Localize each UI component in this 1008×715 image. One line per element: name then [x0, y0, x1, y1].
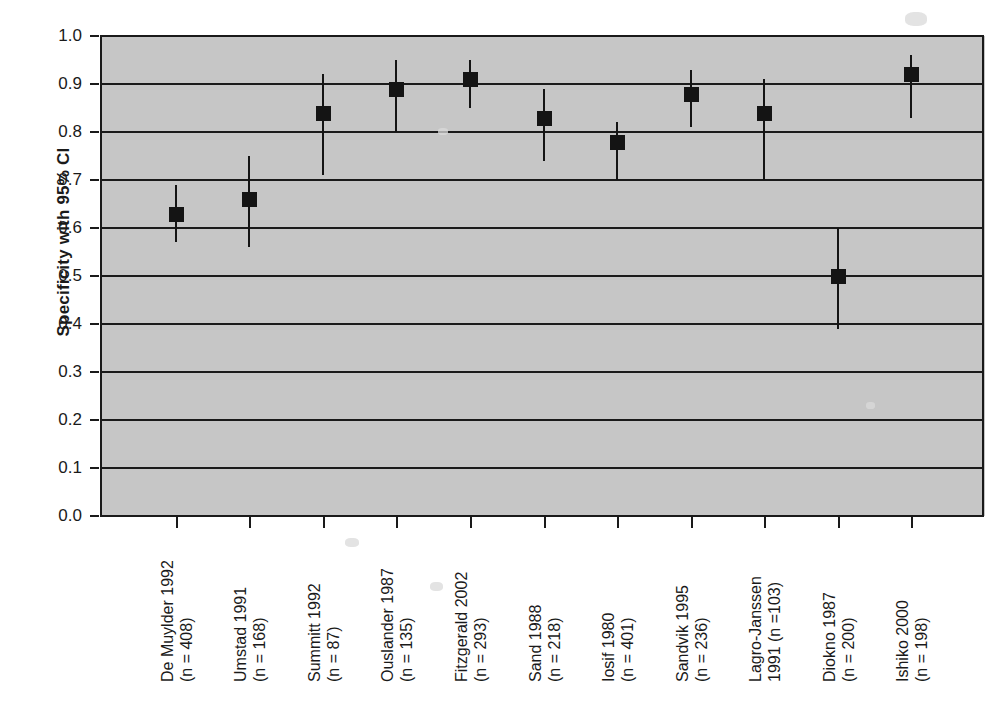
x-category-label-study: Ouslander 1987	[378, 492, 397, 682]
y-tick-0.2	[90, 419, 99, 421]
data-point-marker	[684, 87, 699, 102]
x-category-label: Diokno 1987(n = 200)	[820, 492, 858, 682]
y-tick-label-0.2: 0.2	[30, 411, 82, 428]
y-tick-0.4	[90, 323, 99, 325]
plot-top-border	[100, 35, 984, 37]
scan-artifact	[430, 582, 443, 591]
x-category-label-study: De Muylder 1992	[158, 492, 177, 682]
x-category-label-sample-size: (n = 293)	[471, 492, 490, 682]
y-tick-label-1.0: 1.0	[30, 27, 82, 44]
x-category-label-sample-size: (n = 200)	[839, 492, 858, 682]
scan-artifact	[345, 538, 359, 547]
gridline-0.6	[100, 227, 983, 229]
y-tick-0.6	[90, 227, 99, 229]
x-category-label-sample-size: (n = 168)	[250, 492, 269, 682]
x-category-label: Ishiko 2000(n = 198)	[893, 492, 931, 682]
gridline-0.1	[100, 467, 983, 469]
forest-plot-figure: Specificity with 95% CI 0.00.10.20.30.40…	[0, 0, 1008, 715]
x-category-label-sample-size: (n = 198)	[912, 492, 931, 682]
y-tick-label-0.9: 0.9	[30, 75, 82, 92]
data-point-marker	[463, 72, 478, 87]
y-tick-0.9	[90, 83, 99, 85]
y-tick-0.7	[90, 179, 99, 181]
data-point-marker	[389, 82, 404, 97]
data-point-marker	[169, 207, 184, 222]
y-tick-0.3	[90, 371, 99, 373]
x-category-label: Sand 1988(n = 218)	[526, 492, 564, 682]
y-tick-0.1	[90, 467, 99, 469]
scan-artifact	[438, 128, 448, 135]
x-category-label: Ouslander 1987(n = 135)	[378, 492, 416, 682]
data-point-marker	[610, 135, 625, 150]
y-tick-label-0.6: 0.6	[30, 219, 82, 236]
x-category-label: Umstad 1991(n = 168)	[231, 492, 269, 682]
x-category-label: De Muylder 1992(n = 408)	[158, 492, 196, 682]
x-category-label-study: Sand 1988	[526, 492, 545, 682]
x-category-label-sample-size: (n = 218)	[545, 492, 564, 682]
data-point-marker	[904, 67, 919, 82]
x-category-label-study: Lagro-Janssen	[746, 492, 765, 682]
x-category-label: Iosif 1980(n = 401)	[599, 492, 637, 682]
y-tick-label-0.7: 0.7	[30, 171, 82, 188]
ci-whisker	[763, 79, 765, 180]
data-point-marker	[757, 106, 772, 121]
y-tick-label-0.4: 0.4	[30, 315, 82, 332]
x-category-label: Summitt 1992(n = 87)	[305, 492, 343, 682]
y-tick-0.0	[90, 515, 99, 517]
y-tick-0.5	[90, 275, 99, 277]
data-point-marker	[831, 269, 846, 284]
gridline-0.8	[100, 131, 983, 133]
x-category-label-sample-size: (n = 87)	[324, 492, 343, 682]
x-category-label-study: Umstad 1991	[231, 492, 250, 682]
data-point-marker	[537, 111, 552, 126]
gridline-0.7	[100, 179, 983, 181]
scan-artifact	[905, 12, 927, 26]
x-category-label-study: Sandvik 1995	[673, 492, 692, 682]
y-tick-label-0.0: 0.0	[30, 507, 82, 524]
y-tick-label-0.8: 0.8	[30, 123, 82, 140]
data-point-marker	[316, 106, 331, 121]
gridline-0.2	[100, 419, 983, 421]
data-point-marker	[242, 192, 257, 207]
x-category-label-sample-size: (n = 401)	[618, 492, 637, 682]
x-category-label: Fitzgerald 2002(n = 293)	[452, 492, 490, 682]
x-category-label: Sandvik 1995(n = 236)	[673, 492, 711, 682]
gridline-0.9	[100, 83, 983, 85]
x-category-label-study: Summitt 1992	[305, 492, 324, 682]
x-category-label-sample-size: (n = 408)	[177, 492, 196, 682]
x-category-label-study: Iosif 1980	[599, 492, 618, 682]
y-tick-label-0.1: 0.1	[30, 459, 82, 476]
gridline-0.5	[100, 275, 983, 277]
x-category-label-sample-size: (n = 236)	[692, 492, 711, 682]
x-category-label-sample-size: (n = 135)	[397, 492, 416, 682]
x-category-label-study: Ishiko 2000	[893, 492, 912, 682]
ci-whisker	[322, 74, 324, 175]
x-category-label-sample-size: 1991 (n =103)	[765, 492, 784, 682]
x-category-label-study: Fitzgerald 2002	[452, 492, 471, 682]
gridline-0.3	[100, 371, 983, 373]
y-tick-0.8	[90, 131, 99, 133]
gridline-0.4	[100, 323, 983, 325]
x-category-label: Lagro-Janssen1991 (n =103)	[746, 492, 784, 682]
x-category-label-study: Diokno 1987	[820, 492, 839, 682]
ci-whisker	[910, 55, 912, 117]
y-tick-label-0.5: 0.5	[30, 267, 82, 284]
y-tick-1.0	[90, 35, 99, 37]
ci-whisker	[616, 122, 618, 180]
scan-artifact	[866, 402, 875, 409]
y-tick-label-0.3: 0.3	[30, 363, 82, 380]
